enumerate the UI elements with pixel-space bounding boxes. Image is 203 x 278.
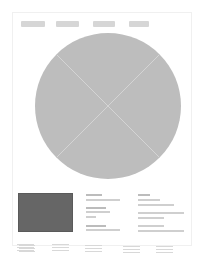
footer-line: [123, 246, 140, 247]
hero-image-placeholder: [35, 33, 181, 179]
footer-line: [17, 244, 34, 245]
image-block-placeholder: [18, 193, 73, 232]
footer-line: [17, 250, 34, 251]
footer-line: [123, 249, 140, 250]
text-line: [86, 199, 120, 201]
text-line: [86, 216, 96, 218]
footer-line: [85, 248, 102, 249]
footer-line: [19, 251, 35, 252]
text-line: [86, 211, 110, 213]
footer-line: [19, 248, 35, 249]
text-line: [86, 207, 106, 209]
nav-placeholder-3[interactable]: [93, 21, 115, 27]
text-line: [138, 230, 184, 232]
footer-line: [156, 252, 173, 253]
text-line: [86, 229, 120, 231]
text-line: [86, 194, 102, 196]
footer-line: [52, 250, 69, 251]
text-line: [138, 204, 174, 206]
text-line: [138, 199, 160, 201]
nav-placeholder-4[interactable]: [129, 21, 149, 27]
footer-line: [85, 251, 102, 252]
footer-line: [52, 244, 69, 245]
footer-line: [52, 247, 69, 248]
nav-placeholder-1[interactable]: [21, 21, 45, 27]
text-line: [138, 217, 164, 219]
footer-line: [19, 245, 35, 246]
text-line: [138, 194, 150, 196]
footer-line: [123, 252, 140, 253]
placeholder-cross-icon: [35, 33, 181, 179]
text-line: [138, 212, 184, 214]
footer-line: [156, 246, 173, 247]
nav-placeholder-2[interactable]: [56, 21, 79, 27]
footer-line: [85, 245, 102, 246]
text-line: [86, 225, 106, 227]
text-line: [138, 225, 164, 227]
footer-line: [156, 249, 173, 250]
document-page: [12, 12, 192, 246]
footer-line: [17, 247, 34, 248]
